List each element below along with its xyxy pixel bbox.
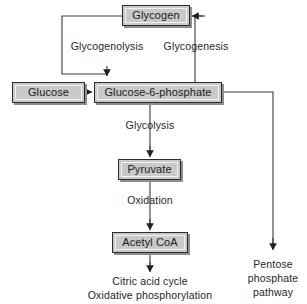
node-acetyl-coa[interactable]: Acetyl CoA [112,232,188,253]
node-glucose-6-phosphate[interactable]: Glucose-6-phosphate [94,82,222,103]
terminal-line: Oxidative phosphorylation [88,288,213,302]
terminal-line: Pentose [248,257,298,271]
node-glucose-6-phosphate-label: Glucose-6-phosphate [104,87,211,98]
edge-label-oxidation: Oxidation [127,194,173,207]
node-glycogen-label: Glycogen [132,10,179,21]
node-pyruvate-label: Pyruvate [127,164,171,175]
edge-g6p-to-pentose [222,92,273,244]
node-glycogen[interactable]: Glycogen [122,5,190,26]
metabolic-pathway-diagram: Glycogen Glucose Glucose-6-phosphate Pyr… [0,0,307,304]
edge-label-glycogenesis: Glycogenesis [164,40,229,53]
node-glucose[interactable]: Glucose [12,82,85,103]
node-acetyl-coa-label: Acetyl CoA [122,237,177,248]
edge-label-glycolysis: Glycolysis [126,119,175,132]
terminal-pentose-phosphate-pathway: Pentose phosphate pathway [248,257,298,300]
terminal-line: Citric acid cycle [88,274,213,288]
terminal-citric-acid-cycle: Citric acid cycle Oxidative phosphorylat… [88,274,213,302]
terminal-line: phosphate [248,271,298,285]
node-glucose-label: Glucose [28,87,69,98]
edge-label-glycogenolysis: Glycogenolysis [71,40,144,53]
terminal-line: pathway [248,285,298,299]
node-pyruvate[interactable]: Pyruvate [118,159,181,180]
